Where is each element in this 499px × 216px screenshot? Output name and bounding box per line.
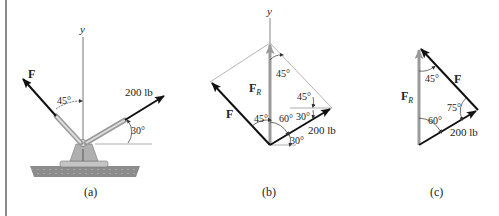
force-200lb-arrow-a: [125, 96, 164, 120]
angle-45-a: 45°: [57, 95, 71, 106]
ground: [30, 166, 140, 177]
angle-30-right-b: 30°: [296, 111, 310, 122]
load-label-a: 200 lb: [125, 86, 153, 98]
load-label-c: 200 lb: [450, 126, 478, 138]
construction-line-left: [210, 43, 270, 82]
resultant-label-b: FR: [249, 81, 261, 97]
panel-b: y FR F 200 lb 45° 45° 60° 45° 30° 30° (b…: [210, 5, 336, 199]
panel-c: FR 200 lb F 45° 75° 60° (c): [401, 49, 478, 199]
angle-45-c: 45°: [425, 73, 439, 84]
angle-45-right-b: 45°: [297, 91, 311, 102]
caption-a: (a): [84, 185, 97, 199]
load-label-b: 200 lb: [308, 124, 336, 136]
y-axis-label-b: y: [266, 5, 272, 17]
angle-45-top-b: 45°: [276, 68, 290, 79]
angle-30-bottom-b: 30°: [290, 135, 304, 146]
resultant-label-c: FR: [401, 89, 413, 105]
caption-b: (b): [262, 185, 276, 199]
force-F-label-b: F: [226, 107, 233, 121]
force-F-arrow-a: [23, 79, 56, 116]
force-diagram: y F 200 lb 30° 45° (a) y: [0, 0, 499, 216]
y-axis-label-a: y: [79, 23, 85, 35]
angle-60-b: 60°: [279, 113, 293, 124]
base-plate: [60, 161, 108, 167]
angle-60-c: 60°: [428, 115, 442, 126]
panel-a: y F 200 lb 30° 45° (a): [23, 23, 164, 199]
caption-c: (c): [430, 185, 443, 199]
force-F-label-c: F: [454, 72, 461, 86]
angle-45-left-b: 45°: [254, 113, 268, 124]
force-F-label-a: F: [28, 67, 35, 81]
angle-30-a: 30°: [131, 125, 145, 136]
angle-75-c: 75°: [447, 102, 461, 113]
